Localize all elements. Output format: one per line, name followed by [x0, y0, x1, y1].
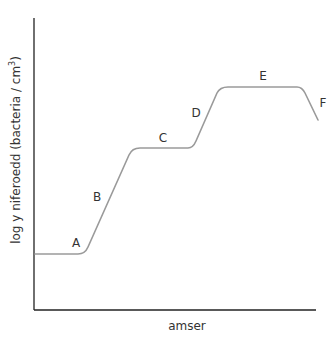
growth-curve-chart: A B C D E F amser log y niferoedd (bacte… [0, 0, 335, 347]
growth-curve-line [35, 87, 318, 254]
y-axis-title: log y niferoedd (bacteria / cm3) [8, 56, 23, 244]
y-axis-title-main: log y niferoedd (bacteria / cm [9, 66, 23, 244]
phase-label-d: D [191, 106, 200, 120]
axes [34, 18, 316, 310]
x-axis-title: amser [168, 319, 206, 333]
phase-label-a: A [72, 236, 81, 250]
phase-labels: A B C D E F [72, 69, 327, 250]
phase-label-f: F [320, 96, 327, 110]
y-axis-title-close: ) [9, 56, 23, 61]
phase-label-c: C [159, 131, 167, 145]
phase-label-b: B [93, 190, 101, 204]
phase-label-e: E [259, 69, 267, 83]
